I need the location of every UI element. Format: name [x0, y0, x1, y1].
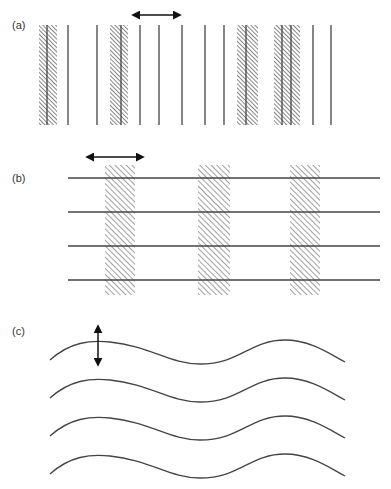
- hatched-band: [105, 165, 135, 295]
- hatched-band: [198, 165, 230, 295]
- panel-a: [39, 15, 331, 125]
- hatched-band: [237, 25, 258, 125]
- wavy-line: [50, 378, 345, 402]
- panel-b: [68, 157, 380, 295]
- wavy-line: [50, 340, 345, 364]
- hatched-band: [290, 165, 320, 295]
- hatched-band: [274, 25, 300, 125]
- hatched-band: [39, 25, 57, 125]
- diagram-canvas: [0, 0, 391, 489]
- hatched-band: [110, 25, 128, 125]
- wavy-line: [50, 454, 345, 478]
- panel-c: [50, 326, 345, 478]
- wavy-line: [50, 416, 345, 440]
